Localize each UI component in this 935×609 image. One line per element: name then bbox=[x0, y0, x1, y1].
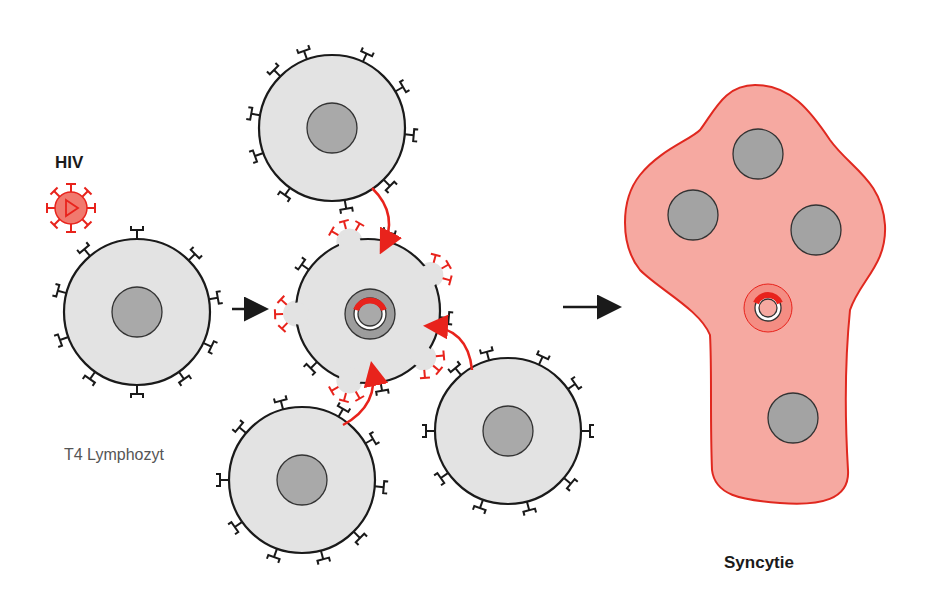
t4-lymphocyte-cell bbox=[52, 226, 222, 398]
uninfected-cell-top bbox=[246, 45, 418, 214]
t4-lymphocyte-label: T4 Lymphozyt bbox=[64, 446, 164, 464]
nucleus bbox=[791, 205, 841, 255]
hiv-label: HIV bbox=[55, 153, 83, 173]
nucleus bbox=[112, 287, 162, 337]
infected-nucleus bbox=[744, 284, 792, 332]
infected-nucleus bbox=[345, 289, 395, 339]
uninfected-cell-bottom-left bbox=[216, 395, 388, 564]
uninfected-cell-bottom-right bbox=[422, 346, 594, 515]
hiv-virus bbox=[47, 184, 95, 232]
infected-cell bbox=[274, 216, 457, 405]
syncytium bbox=[625, 85, 885, 504]
nucleus bbox=[668, 190, 718, 240]
nucleus bbox=[733, 129, 783, 179]
diagram-canvas bbox=[0, 0, 935, 609]
syncytium-label: Syncytie bbox=[724, 553, 794, 573]
nucleus bbox=[768, 393, 818, 443]
